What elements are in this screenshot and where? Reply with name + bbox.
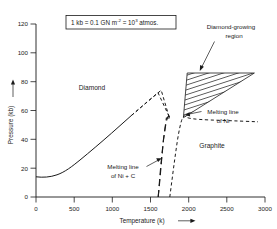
- units-note-box: 1 kb = 0.1 GN m-2 = 103 atmos.: [66, 16, 176, 30]
- x-tick-2000: 2000: [182, 205, 196, 212]
- x-axis-title-group: Temperature (k): [119, 217, 195, 225]
- y-axis-title-group: Pressure (kb): [7, 80, 15, 145]
- phase-diagram-figure: 0 20 40 60 80 100 120 0 500 1000 1500 20…: [0, 0, 277, 229]
- y-tick-20: 20: [21, 165, 28, 172]
- annot-melting-nic-line1: Melting line: [107, 163, 139, 170]
- y-tick-40: 40: [21, 136, 28, 143]
- annotation-diamond-growing-region: Diamond-growing region: [200, 23, 256, 71]
- x-tick-2500: 2500: [220, 205, 234, 212]
- region-label-diamond: Diamond: [79, 84, 106, 91]
- y-axis-title: Pressure (kb): [7, 106, 15, 144]
- x-tick-1500: 1500: [144, 205, 158, 212]
- x-axis-arrow-icon: [190, 219, 195, 223]
- annot-diamond-growing-arrow-icon: [200, 65, 204, 71]
- x-tick-0: 0: [34, 205, 38, 212]
- y-tick-100: 100: [18, 49, 29, 56]
- annot-melting-ni-line1: Melting line: [207, 108, 239, 115]
- x-tick-500: 500: [69, 205, 80, 212]
- y-tick-80: 80: [21, 78, 28, 85]
- x-tick-3000: 3000: [258, 205, 272, 212]
- annot-melting-ni-line2: of Ni: [217, 117, 230, 124]
- annot-diamond-growing-line1: Diamond-growing: [207, 23, 256, 30]
- annotation-melting-line-ni-plus-c: Melting line of Ni + C: [107, 158, 161, 178]
- y-tick-60: 60: [21, 107, 28, 114]
- note-part-2: = 10: [121, 19, 136, 26]
- melting-line-ni-curve: [170, 116, 258, 197]
- x-axis-title: Temperature (k): [119, 217, 164, 225]
- y-tick-0: 0: [25, 193, 29, 200]
- x-tick-1000: 1000: [105, 205, 119, 212]
- region-label-graphite: Graphite: [199, 142, 225, 150]
- y-axis-arrow-icon: [11, 80, 15, 85]
- note-part-3: atmos.: [138, 19, 159, 26]
- y-axis: 0 20 40 60 80 100 120: [18, 20, 36, 200]
- units-note-text: 1 kb = 0.1 GN m-2 = 103 atmos.: [71, 18, 158, 25]
- annot-melting-nic-line2: of Ni + C: [111, 172, 136, 179]
- melting-line-ni-plus-c-curve: [158, 116, 169, 197]
- x-axis: 0 500 1000 1500 2000 2500 3000: [34, 197, 272, 212]
- equilibrium-curve-dashed: [131, 93, 169, 118]
- y-tick-120: 120: [18, 20, 29, 27]
- annot-diamond-growing-line2: region: [225, 32, 243, 39]
- note-part-1: 1 kb = 0.1 GN m: [71, 19, 117, 26]
